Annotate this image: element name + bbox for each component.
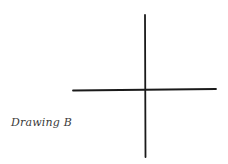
- vertical-line: [145, 15, 146, 157]
- drawing-caption: Drawing B: [11, 116, 72, 129]
- horizontal-line: [73, 89, 216, 91]
- cross-drawing: [0, 0, 228, 164]
